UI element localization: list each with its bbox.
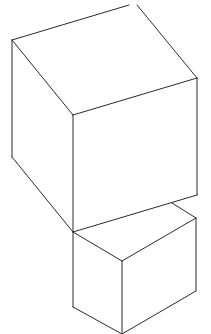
cube-edge — [73, 307, 122, 334]
cube-edge — [172, 203, 196, 218]
cube-edge — [122, 291, 196, 334]
cube-edge — [137, 5, 197, 78]
cube-edge — [122, 218, 196, 261]
cube-diagram — [0, 0, 211, 334]
bottom-cube — [73, 203, 196, 334]
cube-edge — [73, 195, 197, 232]
cube-edge — [12, 40, 73, 115]
cube-edge — [12, 5, 129, 40]
cube-edge — [12, 157, 73, 232]
cube-edge — [73, 78, 197, 115]
top-cube — [12, 5, 197, 232]
cube-edge — [73, 232, 122, 261]
